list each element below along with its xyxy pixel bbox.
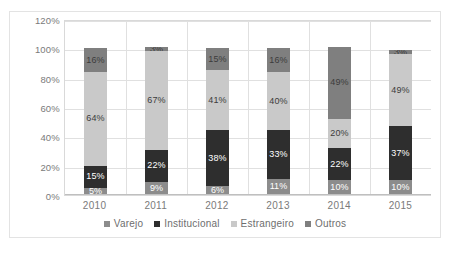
y-axis-tick-label: 60% bbox=[40, 103, 60, 114]
bar-value-label: 41% bbox=[208, 96, 226, 105]
y-axis-tick-label: 100% bbox=[35, 44, 60, 55]
bar-value-label: 22% bbox=[330, 160, 348, 169]
chart-plot-wrapper: 0%20%40%60%80%100%120% 5%15%64%16%9%22%6… bbox=[10, 12, 440, 237]
bar-value-label: 10% bbox=[330, 183, 348, 192]
bar-value-label: 3% bbox=[394, 50, 407, 54]
bar-value-label: 3% bbox=[150, 47, 163, 51]
bar-segment-estrangeiro[interactable]: 41% bbox=[206, 70, 229, 130]
bar-value-label: 15% bbox=[208, 55, 226, 64]
bar-value-label: 64% bbox=[86, 114, 104, 123]
bar-segment-institucional[interactable]: 15% bbox=[84, 166, 107, 188]
bar-segment-outros[interactable]: 15% bbox=[206, 48, 229, 70]
bar-value-label: 16% bbox=[86, 56, 104, 65]
bar-value-label: 38% bbox=[208, 154, 226, 163]
bar-segment-varejo[interactable]: 11% bbox=[267, 179, 290, 195]
bar-value-label: 33% bbox=[269, 150, 287, 159]
bar-column-2012[interactable]: 6%38%41%15% bbox=[206, 48, 229, 195]
bar-segment-outros[interactable]: 16% bbox=[84, 48, 107, 71]
y-axis-tick-label: 20% bbox=[40, 161, 60, 172]
bar-segment-institucional[interactable]: 37% bbox=[389, 126, 412, 180]
x-axis-tick-label: 2014 bbox=[328, 200, 351, 211]
chart-legend: VarejoInstitucionalEstrangeiroOutros bbox=[10, 218, 440, 229]
bar-segment-varejo[interactable]: 10% bbox=[389, 180, 412, 195]
y-axis-tick-label: 0% bbox=[46, 191, 60, 202]
bar-value-label: 22% bbox=[147, 161, 165, 170]
bar-column-2011[interactable]: 9%22%67%3% bbox=[145, 47, 168, 195]
bar-segment-institucional[interactable]: 22% bbox=[145, 150, 168, 182]
legend-swatch-icon bbox=[231, 221, 237, 227]
bar-segment-estrangeiro[interactable]: 40% bbox=[267, 72, 290, 131]
legend-label: Estrangeiro bbox=[241, 218, 294, 229]
bars-layer: 5%15%64%16%9%22%67%3%6%38%41%15%11%33%40… bbox=[65, 21, 431, 195]
y-axis-tick-label: 40% bbox=[40, 132, 60, 143]
bar-value-label: 67% bbox=[147, 96, 165, 105]
bar-segment-estrangeiro[interactable]: 20% bbox=[328, 119, 351, 148]
bar-value-label: 11% bbox=[270, 182, 288, 191]
bar-column-2010[interactable]: 5%15%64%16% bbox=[84, 48, 107, 195]
bar-value-label: 49% bbox=[391, 86, 409, 95]
bar-segment-outros[interactable]: 49% bbox=[328, 47, 351, 119]
legend-swatch-icon bbox=[154, 221, 160, 227]
legend-swatch-icon bbox=[104, 221, 110, 227]
bar-segment-outros[interactable]: 16% bbox=[267, 48, 290, 71]
bar-value-label: 9% bbox=[150, 184, 163, 193]
bar-value-label: 40% bbox=[269, 97, 287, 106]
bar-segment-varejo[interactable]: 10% bbox=[328, 180, 351, 195]
y-axis: 0%20%40%60%80%100%120% bbox=[14, 20, 60, 196]
bar-column-2013[interactable]: 11%33%40%16% bbox=[267, 48, 290, 195]
bar-value-label: 49% bbox=[330, 78, 348, 87]
x-axis-tick-label: 2015 bbox=[389, 200, 412, 211]
legend-label: Outros bbox=[315, 218, 346, 229]
plot-area: 5%15%64%16%9%22%67%3%6%38%41%15%11%33%40… bbox=[64, 20, 431, 196]
legend-label: Varejo bbox=[114, 218, 143, 229]
bar-segment-outros[interactable]: 3% bbox=[145, 47, 168, 51]
bar-column-2015[interactable]: 10%37%49%3% bbox=[389, 50, 412, 195]
x-axis: 201020112012201320142015 bbox=[64, 200, 431, 216]
bar-value-label: 16% bbox=[269, 56, 287, 65]
legend-swatch-icon bbox=[305, 221, 311, 227]
chart-frame: 0%20%40%60%80%100%120% 5%15%64%16%9%22%6… bbox=[9, 11, 441, 238]
x-axis-tick-label: 2012 bbox=[205, 200, 228, 211]
bar-value-label: 10% bbox=[391, 183, 409, 192]
bar-value-label: 15% bbox=[86, 172, 104, 181]
x-axis-tick-label: 2013 bbox=[266, 200, 289, 211]
bar-value-label: 37% bbox=[391, 149, 409, 158]
x-axis-line bbox=[65, 194, 431, 195]
bar-value-label: 20% bbox=[330, 129, 348, 138]
legend-item-institucional[interactable]: Institucional bbox=[154, 218, 219, 229]
y-axis-tick-label: 120% bbox=[35, 15, 60, 26]
legend-label: Institucional bbox=[164, 218, 219, 229]
bar-segment-institucional[interactable]: 22% bbox=[328, 148, 351, 180]
bar-segment-estrangeiro[interactable]: 67% bbox=[145, 51, 168, 149]
legend-item-estrangeiro[interactable]: Estrangeiro bbox=[231, 218, 294, 229]
bar-column-2014[interactable]: 10%22%20%49% bbox=[328, 47, 351, 195]
y-axis-tick-label: 80% bbox=[40, 73, 60, 84]
bar-segment-outros[interactable]: 3% bbox=[389, 50, 412, 54]
bar-segment-institucional[interactable]: 38% bbox=[206, 130, 229, 186]
legend-item-outros[interactable]: Outros bbox=[305, 218, 346, 229]
x-axis-tick-label: 2011 bbox=[144, 200, 167, 211]
bar-segment-estrangeiro[interactable]: 49% bbox=[389, 54, 412, 126]
legend-item-varejo[interactable]: Varejo bbox=[104, 218, 143, 229]
x-axis-tick-label: 2010 bbox=[83, 200, 106, 211]
bar-segment-institucional[interactable]: 33% bbox=[267, 130, 290, 178]
bar-segment-estrangeiro[interactable]: 64% bbox=[84, 72, 107, 166]
